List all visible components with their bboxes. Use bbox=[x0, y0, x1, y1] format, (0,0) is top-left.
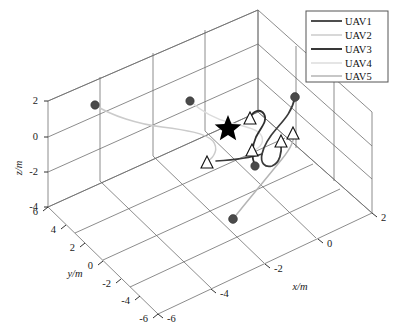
z-axis-ticks bbox=[44, 101, 48, 207]
figure-3d-trajectory-plot: 2 0 -2 -4 z/m 6 4 2 0 -2 -4 -6 y/m bbox=[0, 0, 394, 329]
start-point bbox=[251, 162, 259, 170]
x-tick-neg2: -2 bbox=[274, 263, 283, 274]
legend-label-uav2: UAV2 bbox=[345, 30, 372, 41]
plot-svg: 2 0 -2 -4 z/m 6 4 2 0 -2 -4 -6 y/m bbox=[0, 0, 394, 329]
x-axis-label: x/m bbox=[291, 281, 308, 292]
start-markers bbox=[91, 93, 300, 224]
start-point bbox=[291, 93, 300, 102]
trajectory-uav2 bbox=[95, 105, 216, 161]
legend-label-uav1: UAV1 bbox=[345, 16, 372, 27]
start-point bbox=[186, 97, 194, 105]
y-tick-0: 0 bbox=[88, 260, 93, 271]
y-tick-2: 2 bbox=[70, 242, 75, 253]
y-tick-4: 4 bbox=[51, 224, 57, 235]
x-tick-0: 0 bbox=[327, 238, 332, 249]
x-tick-neg6: -6 bbox=[167, 313, 176, 324]
legend-label-uav4: UAV4 bbox=[345, 58, 372, 69]
x-tick-neg4: -4 bbox=[220, 288, 229, 299]
floor-grid bbox=[48, 112, 372, 314]
y-tick-6: 6 bbox=[33, 206, 38, 217]
start-point bbox=[229, 215, 238, 224]
end-point bbox=[287, 127, 299, 139]
y-tick-neg2: -2 bbox=[102, 278, 111, 289]
legend-label-uav3: UAV3 bbox=[345, 44, 372, 55]
end-point bbox=[246, 144, 258, 156]
x-tick-2: 2 bbox=[381, 212, 386, 223]
z-tick-0: 0 bbox=[33, 131, 38, 142]
trajectories bbox=[95, 97, 295, 219]
legend-label-uav5: UAV5 bbox=[345, 71, 372, 82]
z-tick-neg2: -2 bbox=[29, 166, 38, 177]
y-tick-neg4: -4 bbox=[121, 295, 130, 306]
z-axis-label: z/m bbox=[13, 160, 24, 176]
start-point bbox=[91, 101, 99, 109]
y-axis-label: y/m bbox=[66, 268, 83, 279]
back-wall-left bbox=[48, 10, 258, 207]
x-axis-ticks bbox=[158, 213, 377, 318]
y-tick-neg6: -6 bbox=[139, 313, 148, 324]
trajectory-uav1 bbox=[262, 97, 295, 166]
z-tick-2: 2 bbox=[33, 95, 38, 106]
y-axis-ticks bbox=[43, 207, 158, 318]
end-point bbox=[275, 135, 287, 147]
